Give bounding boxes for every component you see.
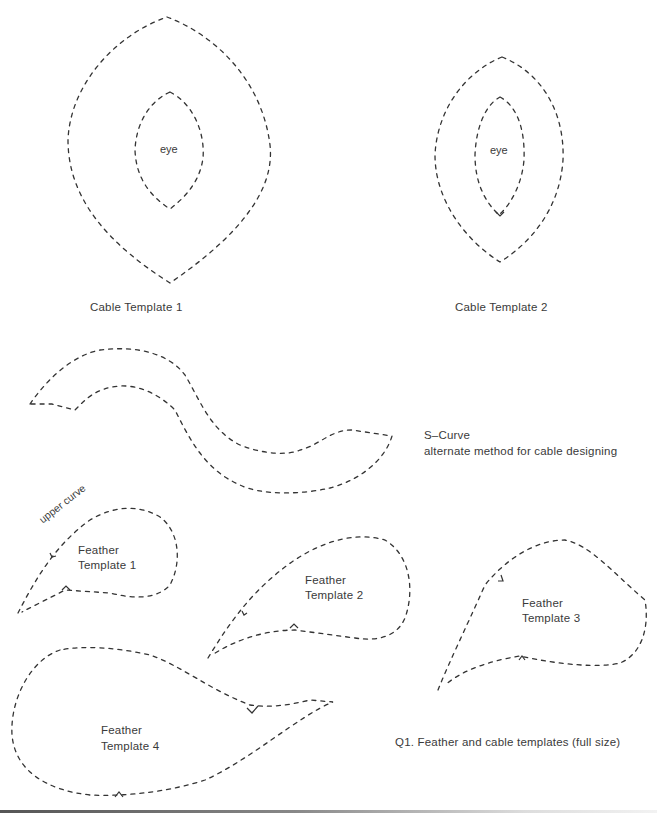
- feather-template-2-line2: Template 2: [305, 588, 363, 603]
- feather-template-4-line2: Template 4: [101, 739, 159, 754]
- feather-template-4-outline: [12, 648, 333, 796]
- feather-template-1-line2: Template 1: [78, 558, 136, 573]
- feather-template-1-line1: Feather: [78, 543, 119, 558]
- feather-template-3-line2: Template 3: [522, 611, 580, 626]
- bottom-divider: [0, 810, 657, 813]
- cable-template-2-title: Cable Template 2: [455, 300, 548, 315]
- cable-template-2-outer: [435, 57, 563, 262]
- s-curve-outline: [30, 349, 392, 493]
- feather-template-2-line1: Feather: [305, 573, 346, 588]
- figure-caption: Q1. Feather and cable templates (full si…: [395, 735, 620, 750]
- feather-template-4-line1: Feather: [101, 723, 142, 738]
- s-curve-subtitle: alternate method for cable designing: [424, 444, 617, 459]
- cable-template-1-eye-label: eye: [160, 142, 178, 157]
- templates-drawing: [0, 0, 657, 815]
- s-curve-title: S–Curve: [424, 428, 470, 443]
- cable-template-1-title: Cable Template 1: [90, 300, 183, 315]
- cable-template-2-eye-label: eye: [490, 143, 508, 158]
- feather-template-3-line1: Feather: [522, 596, 563, 611]
